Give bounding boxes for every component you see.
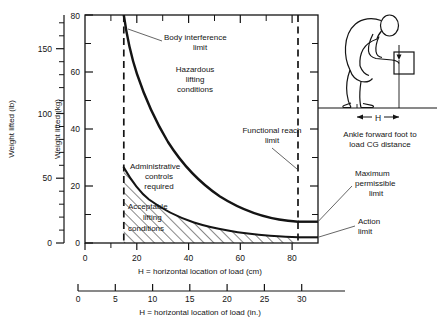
- figure-root: 0 50 100 150 Weight lifted (lb) Weight l…: [0, 0, 439, 323]
- administrative-label-line1: Administrative: [130, 162, 181, 171]
- x-axis-cm-tick-label: 40: [184, 253, 194, 263]
- acceptable-label-line1: Acceptable: [128, 202, 168, 211]
- diagram-caption-line2: load CG distance: [349, 140, 411, 149]
- x-axis-inches-tick-label: 30: [297, 294, 307, 304]
- hazardous-label-line1: Hazardous: [176, 65, 215, 74]
- y-axis-pounds-tick-label: 0: [47, 238, 52, 248]
- x-axis-inches-tick-label: 0: [76, 294, 81, 304]
- y-axis-kg-tick-label: 20: [71, 181, 81, 191]
- administrative-label-line2: controls: [145, 172, 173, 181]
- x-axis-cm-tick-label: 0: [83, 253, 88, 263]
- diagram-caption-line1: Ankle forward foot to: [343, 130, 417, 139]
- maximum-permissible-label-line1: Maximum: [355, 169, 390, 178]
- y-axis-pounds-tick-label: 100: [38, 109, 52, 119]
- y-axis-kg-tick-label: 60: [71, 67, 81, 77]
- functional-reach-label-line1: Functional reach: [242, 126, 301, 135]
- y-axis-kg-tick-label: 0: [75, 238, 80, 248]
- h-dimension-label: H: [375, 113, 381, 123]
- y-axis-kg-tick-label: 80: [71, 11, 81, 21]
- hazardous-label-line2: lifting: [186, 75, 205, 84]
- action-limit-label-line2: limit: [358, 227, 373, 236]
- acceptable-label-line2: lifting: [143, 213, 162, 222]
- maximum-permissible-label-line2: permissible: [355, 179, 396, 188]
- x-axis-cm-title: H = horizontal location of load (cm): [138, 267, 262, 276]
- body-interference-label-line1: Body interference: [164, 33, 227, 42]
- x-axis-cm-tick-label: 20: [132, 253, 142, 263]
- x-axis-inches-tick-label: 20: [222, 294, 232, 304]
- x-axis-inches-tick-label: 5: [113, 294, 118, 304]
- y-axis-kg-tick-label: 40: [71, 124, 81, 134]
- maximum-permissible-label-line3: limit: [369, 189, 384, 198]
- y-axis-pounds-tick-label: 150: [38, 44, 52, 54]
- body-interference-label-line2: limit: [193, 43, 208, 52]
- y-axis-pounds-title: Weight lifted (lb): [7, 100, 16, 158]
- hazardous-label-line3: conditions: [177, 85, 213, 94]
- x-axis-inches-title: H = horizontal location of load (in.): [139, 308, 261, 317]
- x-axis-inches-tick-label: 15: [185, 294, 195, 304]
- x-axis-inches-tick-label: 10: [148, 294, 158, 304]
- y-axis-kilograms-title: Weight lifted (kg): [53, 99, 62, 159]
- action-limit-label-line1: Action: [358, 217, 380, 226]
- x-axis-inches-tick-label: 25: [260, 294, 270, 304]
- x-axis-cm-tick-label: 80: [287, 253, 297, 263]
- administrative-label-line3: required: [144, 182, 173, 191]
- acceptable-label-line3: conditions: [128, 224, 164, 233]
- functional-reach-label-line2: limit: [265, 136, 280, 145]
- lifting-chart-svg: 0 50 100 150 Weight lifted (lb) Weight l…: [0, 0, 439, 323]
- y-axis-pounds-tick-label: 50: [43, 173, 53, 183]
- x-axis-cm-tick-label: 60: [236, 253, 246, 263]
